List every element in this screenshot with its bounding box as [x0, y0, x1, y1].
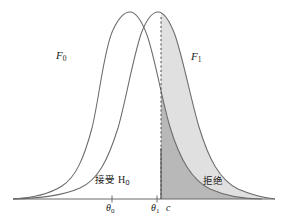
curve-label-f0-base: F [56, 49, 63, 61]
acceptance-region-text: 接受 [95, 174, 115, 185]
curve-f0 [13, 12, 262, 199]
rejection-region-label: 拒绝 [203, 176, 223, 186]
curve-label-f1-subscript: 1 [198, 55, 202, 64]
curve-label-f0: F0 [56, 50, 66, 63]
distribution-plot [0, 0, 287, 223]
tick-label-theta0-subscript: 0 [111, 207, 115, 215]
tick-label-theta1: θ1 [151, 203, 159, 215]
rejection-area-f0-fill [13, 12, 262, 199]
tick-label-theta1-subscript: 1 [156, 207, 160, 215]
curve-label-f1-base: F [191, 50, 198, 62]
rejection-area-f1-fill [13, 12, 275, 199]
acceptance-region-h-subscript: 0 [125, 179, 129, 187]
tick-label-c: c [166, 203, 170, 213]
curve-label-f0-subscript: 0 [63, 54, 67, 63]
curve-label-f1: F1 [191, 51, 201, 64]
hypothesis-test-figure: F0 F1 接受H0 拒绝 θ0 θ1 c [0, 0, 287, 223]
acceptance-region-label: 接受H0 [95, 175, 130, 187]
tick-label-theta0: θ0 [106, 203, 114, 215]
curve-f1 [13, 12, 275, 199]
